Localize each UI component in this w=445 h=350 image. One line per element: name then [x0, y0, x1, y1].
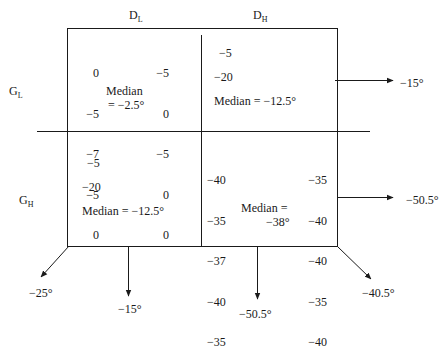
col-high-effect-label: −50.5°	[239, 307, 272, 321]
cell-gh-dh-median-label: Median =	[241, 201, 287, 215]
diag-left-label: −25°	[29, 286, 53, 300]
col-header-dl: DL	[129, 8, 143, 27]
diag-left-arrow	[41, 246, 69, 277]
cell-gl-dl-right-values: −5 0 −5 0 0	[153, 40, 169, 256]
cell-gh-dl-median: Median = −12.5°	[82, 204, 164, 218]
cell-gl-dl-median-value: = −2.5°	[108, 98, 144, 112]
col-low-effect-label: −15°	[118, 302, 142, 316]
row-header-gl: GL	[9, 84, 23, 103]
cell-gh-dh-left-values: −40 −35 −37 −40 −35	[207, 147, 226, 350]
cell-gh-dh-median-value: −38°	[266, 215, 290, 229]
row-header-gh: GH	[19, 193, 33, 212]
row-low-effect-label: −15°	[400, 76, 424, 90]
row-high-effect-label: −50.5°	[406, 193, 439, 207]
cell-gh-dl-value-1: −5	[87, 156, 100, 170]
cell-gh-dl-value-2: −20	[82, 180, 101, 194]
cell-gl-dl-left-values: 0 −5 −7 −5 0	[78, 40, 99, 256]
col-header-dh: DH	[253, 8, 267, 27]
cell-gh-dh-right-values: −35 −40 −40 −35 −40	[303, 147, 327, 350]
cell-gl-dh-median: Median = −12.5°	[214, 94, 296, 108]
diag-right-label: −40.5°	[362, 286, 395, 300]
cell-gl-dh-value-2: −20	[214, 70, 233, 84]
cell-gl-dh-value-1: −5	[219, 46, 232, 60]
diag-right-arrow	[338, 247, 371, 279]
cell-gl-dl-median-label: Median	[106, 84, 143, 98]
